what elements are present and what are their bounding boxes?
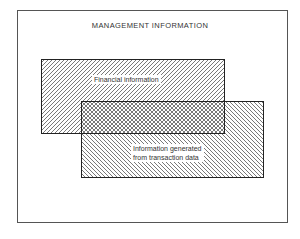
overlap-region [81, 101, 224, 133]
transaction-label-line-1: Information generated [133, 144, 202, 153]
transaction-information-label: Information generated from transaction d… [131, 144, 204, 162]
diagram-title: MANAGEMENT INFORMATION [0, 21, 300, 30]
financial-information-label: Financial information [92, 75, 161, 84]
transaction-label-line-2: from transaction data [133, 153, 202, 162]
venn-rectangles [0, 0, 300, 239]
